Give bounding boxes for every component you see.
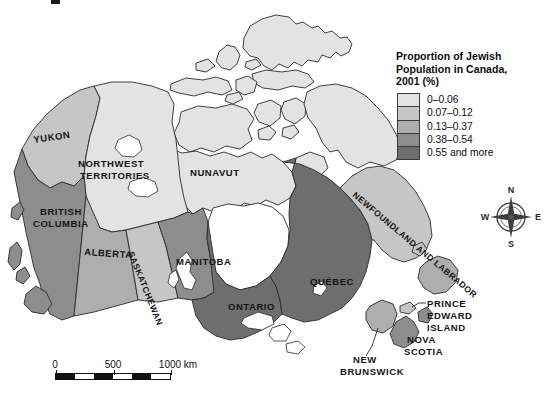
shape-island-small-1 — [196, 59, 215, 72]
scale-label-0: 0 — [52, 359, 58, 370]
shape-prince-of-wales — [281, 98, 306, 124]
scale-segment — [94, 374, 113, 379]
compass-label-south: S — [508, 239, 514, 249]
compass-icon: N S E W — [479, 182, 543, 252]
legend-swatch-2 — [397, 120, 420, 133]
compass-label-west: W — [481, 212, 490, 222]
legend-row: 0.55 and more — [397, 146, 546, 159]
legend-swatch-1 — [397, 106, 420, 119]
shape-island-small-5 — [245, 59, 261, 70]
compass-label-north: N — [508, 185, 515, 195]
compass-hub — [508, 214, 513, 219]
legend-label-4: 0.55 and more — [427, 146, 493, 159]
label-northwest-territories: NORTHWEST — [78, 158, 144, 169]
scale-label-1: 500 — [105, 359, 122, 370]
legend-swatch-3 — [397, 133, 420, 146]
label-nova-scotia-2: SCOTIA — [404, 346, 443, 357]
shape-island-small-3 — [258, 126, 276, 140]
legend-swatch-0 — [397, 93, 420, 106]
legend-label-3: 0.38–0.54 — [427, 133, 473, 146]
legend-row: 0.38–0.54 — [397, 133, 546, 146]
legend-row: 0.07–0.12 — [397, 106, 546, 119]
label-northwest-territories-2: TERRITORIES — [80, 170, 150, 181]
scale-segment — [113, 374, 132, 379]
scale-segment — [56, 374, 75, 379]
scale-label-2: 1000 km — [159, 359, 197, 370]
legend-rows: 0–0.06 0.07–0.12 0.13–0.37 0.38–0.54 0.5… — [397, 93, 546, 160]
shape-island-small-2 — [225, 92, 243, 104]
label-quebec: QUÉBEC — [310, 276, 354, 287]
region-northwest-territories — [84, 82, 188, 232]
legend-label-1: 0.07–0.12 — [427, 106, 473, 119]
lake-huron — [269, 324, 291, 341]
label-prince-edward-island: PRINCE — [427, 298, 466, 309]
scale-bar: 0 500 1000 km — [55, 359, 171, 380]
shape-axel-heiberg — [216, 45, 240, 70]
leader-line-new-brunswick — [366, 328, 378, 356]
compass-label-east: E — [535, 212, 541, 222]
shape-ellesmere — [243, 15, 352, 70]
legend-label-0: 0–0.06 — [427, 93, 459, 106]
label-nunavut: NUNAVUT — [190, 167, 240, 178]
label-nova-scotia: NOVA — [407, 334, 436, 345]
shape-somerset — [254, 100, 281, 126]
label-british-columbia-2: COLUMBIA — [33, 218, 89, 229]
label-prince-edward-island-2: EDWARD — [427, 310, 473, 321]
legend-swatch-4 — [397, 146, 420, 159]
shape-melville — [170, 77, 232, 96]
legend-row: 0–0.06 — [397, 93, 546, 106]
label-prince-edward-island-3: ISLAND — [427, 322, 466, 333]
label-manitoba: MANITOBA — [176, 256, 231, 267]
lake-erie — [286, 341, 305, 354]
region-nunavut-mainland — [169, 148, 296, 214]
region-new-brunswick — [366, 300, 397, 333]
legend-label-2: 0.13–0.37 — [427, 120, 473, 133]
compass-rose: N S E W — [479, 182, 543, 252]
shape-victoria — [174, 104, 254, 152]
shape-devon — [252, 70, 314, 90]
scale-tick-start — [56, 370, 57, 375]
shape-island-small-4 — [282, 125, 299, 139]
scale-segment — [75, 374, 94, 379]
label-new-brunswick-2: BRUNSWICK — [340, 366, 404, 377]
legend-title: Proportion of Jewish Population in Canad… — [396, 50, 546, 88]
label-british-columbia: BRITISH — [40, 206, 82, 217]
scale-segment — [151, 374, 170, 379]
canada-choropleth-map: .land { stroke: #2b2b2b; stroke-width: 0… — [0, 0, 554, 401]
scale-labels: 0 500 1000 km — [55, 359, 171, 372]
legend-row: 0.13–0.37 — [397, 120, 546, 133]
shape-haida-gwaii — [8, 242, 22, 270]
scale-track — [55, 373, 171, 380]
scale-segment — [132, 374, 151, 379]
legend: Proportion of Jewish Population in Canad… — [396, 50, 546, 160]
shape-bc-coast-island-2 — [16, 267, 30, 284]
scale-tick-mid — [114, 370, 115, 375]
scale-tick-end — [171, 370, 172, 375]
region-prince-edward-island — [400, 302, 416, 314]
label-new-brunswick: NEW — [353, 354, 377, 365]
label-ontario: ONTARIO — [228, 301, 275, 312]
